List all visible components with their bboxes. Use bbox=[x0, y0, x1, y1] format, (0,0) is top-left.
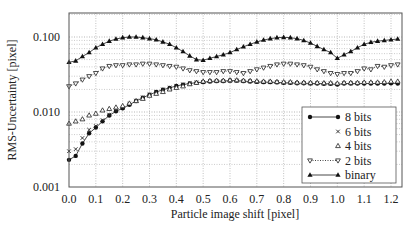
triangle-down-marker bbox=[322, 70, 327, 74]
y-tick-label: 0.001 bbox=[33, 180, 60, 194]
triangle-down-marker bbox=[120, 64, 125, 68]
triangle-up-marker bbox=[87, 113, 92, 117]
triangle-down-marker bbox=[228, 70, 233, 74]
triangle-down-marker bbox=[241, 72, 246, 76]
triangle-filled-marker bbox=[348, 49, 353, 54]
circle-marker bbox=[80, 141, 84, 145]
circle-marker bbox=[107, 113, 111, 117]
triangle-down-marker bbox=[368, 68, 373, 72]
legend-label: 8 bits bbox=[345, 110, 372, 124]
series-line bbox=[69, 64, 398, 87]
y-axis-label: RMS-Uncertainty [pixel] bbox=[5, 40, 19, 161]
x-tick-label: 0.3 bbox=[142, 192, 157, 206]
triangle-down-marker bbox=[181, 67, 186, 71]
x-tick-label: 0.2 bbox=[115, 192, 130, 206]
triangle-down-marker bbox=[261, 66, 266, 70]
triangle-up-marker bbox=[100, 108, 105, 112]
x-tick-label: 1.0 bbox=[330, 192, 345, 206]
triangle-down-marker bbox=[268, 64, 273, 68]
triangle-down-marker bbox=[147, 62, 152, 66]
triangle-up-marker bbox=[120, 103, 125, 107]
triangle-up-marker bbox=[114, 105, 119, 109]
x-tick-label: 0.0 bbox=[62, 192, 77, 206]
triangle-down-marker bbox=[395, 63, 400, 67]
triangle-down-marker bbox=[140, 62, 145, 66]
triangle-down-marker bbox=[194, 70, 199, 74]
triangle-down-marker bbox=[301, 64, 306, 68]
triangle-filled-marker bbox=[127, 34, 132, 39]
triangle-down-marker bbox=[342, 72, 347, 76]
x-tick-label: 0.7 bbox=[249, 192, 264, 206]
x-tick-label: 0.6 bbox=[223, 192, 238, 206]
chart-svg: 0.00.10.20.30.40.50.60.70.80.91.01.11.2 … bbox=[0, 0, 418, 234]
x-tick-label: 0.1 bbox=[88, 192, 103, 206]
circle-marker bbox=[336, 115, 340, 119]
triangle-filled-marker bbox=[73, 58, 78, 63]
triangle-filled-marker bbox=[87, 50, 92, 55]
circle-marker bbox=[308, 115, 312, 119]
series-binary bbox=[66, 34, 400, 64]
triangle-up-marker bbox=[80, 117, 85, 121]
legend-label: 2 bits bbox=[345, 154, 372, 168]
triangle-up-marker bbox=[127, 101, 132, 105]
x-axis-ticks: 0.00.10.20.30.40.50.60.70.80.91.01.11.2 bbox=[62, 192, 399, 206]
triangle-down-marker bbox=[154, 63, 159, 67]
legend: 8 bits6 bits4 bits2 bitsbinary bbox=[302, 107, 396, 183]
x-axis-label: Particle image shift [pixel] bbox=[171, 207, 299, 221]
y-tick-label: 0.100 bbox=[33, 30, 60, 44]
circle-marker bbox=[74, 154, 78, 158]
x-tick-label: 0.9 bbox=[303, 192, 318, 206]
x-tick-label: 0.5 bbox=[196, 192, 211, 206]
triangle-down-marker bbox=[214, 71, 219, 75]
x-tick-label: 1.1 bbox=[357, 192, 372, 206]
triangle-down-marker bbox=[382, 65, 387, 69]
triangle-filled-marker bbox=[80, 54, 85, 59]
x-tick-label: 0.4 bbox=[169, 192, 184, 206]
triangle-up-marker bbox=[395, 79, 400, 83]
triangle-down-marker bbox=[348, 72, 353, 76]
x-tick-label: 0.8 bbox=[276, 192, 291, 206]
y-axis-ticks: 0.0010.0100.100 bbox=[33, 30, 60, 194]
triangle-down-marker bbox=[100, 67, 105, 71]
triangle-filled-marker bbox=[133, 34, 138, 39]
triangle-down-marker bbox=[201, 71, 206, 75]
chart-container: 0.00.10.20.30.40.50.60.70.80.91.01.11.2 … bbox=[0, 0, 418, 234]
legend-label: binary bbox=[345, 168, 376, 182]
legend-label: 6 bits bbox=[345, 125, 372, 139]
x-marker bbox=[74, 147, 78, 151]
triangle-down-marker bbox=[207, 71, 212, 75]
triangle-down-marker bbox=[295, 63, 300, 67]
triangle-up-marker bbox=[107, 106, 112, 110]
triangle-filled-marker bbox=[180, 49, 185, 54]
x-tick-label: 1.2 bbox=[384, 192, 399, 206]
triangle-down-marker bbox=[174, 65, 179, 69]
triangle-down-marker bbox=[328, 72, 333, 76]
triangle-down-marker bbox=[127, 63, 132, 67]
triangle-down-marker bbox=[134, 63, 139, 67]
legend-label: 4 bits bbox=[345, 139, 372, 153]
x-marker bbox=[81, 136, 85, 140]
y-tick-label: 0.010 bbox=[33, 105, 60, 119]
